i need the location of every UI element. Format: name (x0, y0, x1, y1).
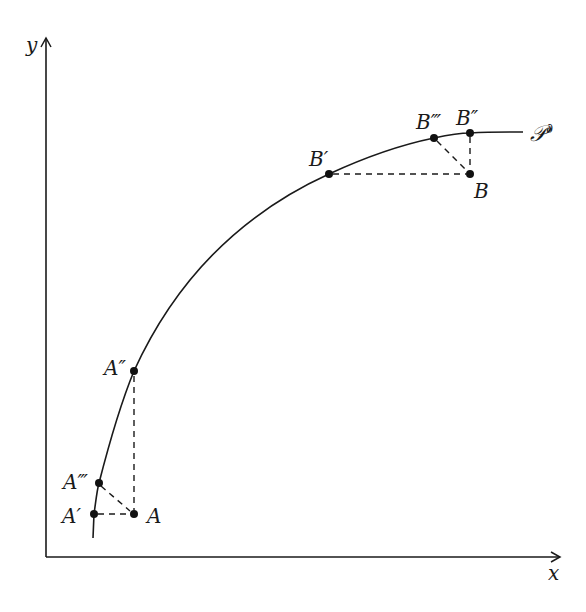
point-label-a3: A‴ (61, 470, 88, 494)
dashed-line-a3-to-a (101, 486, 130, 511)
point-b2 (466, 129, 474, 137)
curve-label-superscript: ∂ (546, 120, 553, 136)
curve-label: 𝒫∂ (530, 120, 553, 146)
point-b (466, 170, 474, 178)
point-label-a: A (145, 504, 161, 528)
point-b1 (325, 170, 333, 178)
point-label-b2: B″ (455, 106, 479, 130)
diagram-figure: x y 𝒫∂ AA′A″A‴BB′B″B‴ (0, 0, 586, 612)
point-label-b: B (473, 179, 489, 203)
projection-lines (98, 137, 470, 514)
point-label-b3: B‴ (415, 110, 442, 134)
point-a2 (130, 367, 138, 375)
point-a (130, 510, 138, 518)
dashed-line-b3-to-b (437, 141, 467, 171)
y-axis-label: y (25, 33, 38, 57)
x-axis-label: x (548, 561, 559, 585)
point-a1 (90, 510, 98, 518)
boundary-curve (93, 132, 523, 538)
point-label-a1: A′ (60, 504, 81, 528)
points-group: AA′A″A‴BB′B″B‴ (60, 106, 489, 528)
point-label-b1: B′ (308, 147, 329, 171)
point-b3 (430, 134, 438, 142)
point-label-a2: A″ (102, 356, 126, 380)
point-a3 (95, 479, 103, 487)
